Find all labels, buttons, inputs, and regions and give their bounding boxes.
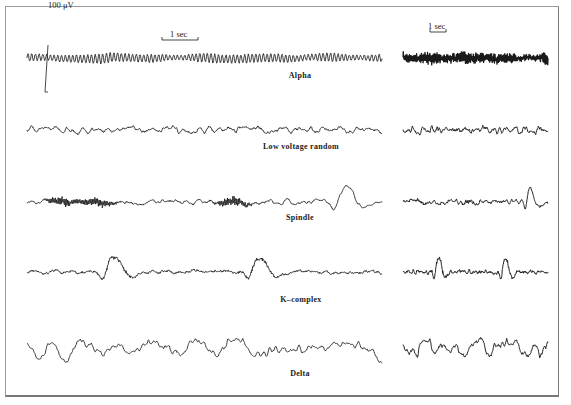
label-spindle: Spindle: [286, 213, 314, 222]
time-scale-label-left: 1 sec: [170, 29, 187, 39]
trace-low-voltage-random-left: [27, 126, 382, 135]
eeg-traces: [27, 52, 548, 364]
trace-spindle-left: [27, 185, 382, 210]
voltage-scale-label: 100 μV: [48, 0, 74, 10]
label-k-complex: K–complex: [280, 295, 321, 304]
trace-k-complex-right: [403, 257, 548, 279]
time-scale-label-right: 1 sec: [428, 21, 445, 31]
eeg-traces-canvas: [0, 0, 571, 405]
label-alpha: Alpha: [289, 71, 311, 80]
trace-delta-right: [403, 337, 548, 357]
trace-alpha-right: [403, 52, 548, 65]
label-low-voltage-random: Low voltage random: [263, 142, 339, 151]
trace-low-voltage-random-right: [403, 125, 548, 135]
trace-k-complex-left: [27, 256, 382, 280]
trace-alpha-left: [27, 52, 382, 64]
label-delta: Delta: [290, 369, 310, 378]
trace-delta-left: [27, 338, 382, 363]
trace-spindle-right: [403, 187, 548, 209]
